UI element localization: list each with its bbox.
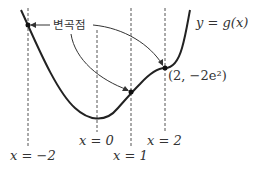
graph: 변곡점 y = g(x) (2, −2e²) x = −2 x = 0 x = … [0,0,257,171]
arrowhead-left-icon [30,22,36,28]
vline-label-2: x = 2 [147,133,182,148]
point-label: (2, −2e²) [168,68,227,83]
inflection-point-right [163,66,168,71]
annotation-label: 변곡점 [53,18,86,32]
vline-label-1: x = 1 [113,148,148,163]
curve-label: y = g(x) [195,15,248,30]
point-x1 [129,90,134,95]
vline-label-neg2: x = −2 [10,148,56,163]
vline-label-0: x = 0 [79,133,114,148]
inflection-point-left [26,23,31,28]
arrow-to-x2 [93,25,162,64]
arrow-to-x1 [71,34,128,90]
